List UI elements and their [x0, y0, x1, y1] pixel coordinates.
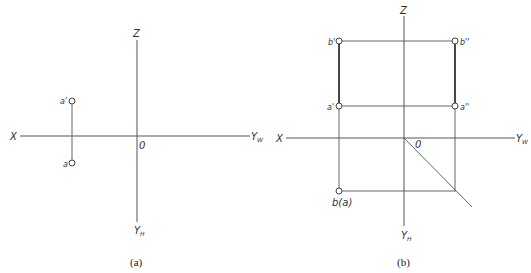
point-b-double-prime-label: b'' — [460, 38, 469, 47]
caption-b: (b) — [397, 256, 410, 269]
point-b-a-top — [336, 188, 342, 194]
point-a — [69, 160, 75, 166]
z-axis-label: Z — [132, 28, 141, 39]
yh-axis-subscript: H — [140, 230, 145, 237]
figure-a: X Z Y W Y H 0 a' a (a) — [9, 28, 264, 269]
yh-axis-subscript: H — [407, 235, 412, 242]
yw-axis-subscript: W — [522, 138, 529, 145]
point-a-double-prime-label: a'' — [460, 103, 469, 112]
point-b-prime-label: b' — [328, 38, 335, 47]
caption-a: (a) — [130, 256, 143, 269]
x-axis-label: X — [275, 133, 284, 144]
point-a-prime-label: a' — [327, 103, 334, 112]
miter-line-45deg — [404, 138, 472, 207]
point-a-prime — [336, 103, 342, 109]
yw-axis-subscript: W — [257, 136, 264, 143]
origin-label: 0 — [139, 140, 145, 151]
projection-diagrams: X Z Y W Y H 0 a' a (a) X Z Y W Y H 0 — [0, 0, 531, 273]
figure-b: X Z Y W Y H 0 b' a' b'' a'' b(a) (b) — [275, 5, 529, 269]
point-a-prime-label: a' — [60, 97, 67, 106]
point-b-a-label: b(a) — [332, 197, 352, 208]
origin-label: 0 — [415, 139, 421, 150]
z-axis-label: Z — [399, 5, 408, 16]
point-a-label: a — [63, 160, 68, 169]
x-axis-label: X — [9, 131, 18, 142]
point-a-prime — [69, 98, 75, 104]
point-b-prime — [336, 38, 342, 44]
point-b-double-prime — [452, 38, 458, 44]
point-a-double-prime — [452, 103, 458, 109]
